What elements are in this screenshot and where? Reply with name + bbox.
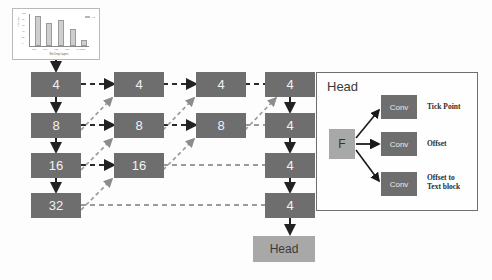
head-output-box[interactable]: Head [253, 236, 315, 262]
backbone-node[interactable]: 4 [196, 72, 246, 97]
backbone-node[interactable]: 16 [31, 153, 81, 178]
chart-y-tick-5: 0 [22, 42, 23, 44]
chart-x-tick: 0.85 [54, 48, 58, 50]
chart-y-tick-2: 60 [22, 24, 24, 26]
backbone-node[interactable]: 4 [114, 72, 164, 97]
legend-label: Acc [91, 16, 95, 18]
head-detail-panel: Head F Conv Conv Conv Tick Point Offset … [316, 72, 478, 211]
chart-plot-area [29, 14, 89, 47]
figure-canvas: Accuracy 100 80 60 40 20 0 Acc 0.95 0.90… [0, 0, 492, 280]
chart-x-tick: 0.90 [43, 48, 47, 50]
backbone-node[interactable]: 4 [265, 153, 315, 178]
backbone-node[interactable]: 4 [265, 113, 315, 138]
chart-bar [58, 20, 64, 46]
chart-bar [35, 16, 41, 46]
chart-y-tick-0: 100 [22, 12, 26, 14]
backbone-node[interactable]: 4 [265, 193, 315, 218]
chart-x-tick: 0.95 [32, 48, 36, 50]
chart-x-tick: 0.80 [65, 48, 69, 50]
chart-x-ticks: 0.95 0.90 0.85 0.80 0.1 (base) [29, 48, 89, 50]
chart-bar [46, 23, 52, 46]
chart-bars [32, 14, 90, 46]
chart-bar [81, 40, 87, 46]
backbone-node[interactable]: 4 [265, 72, 315, 97]
chart-x-tick: 0.1 (base) [76, 48, 85, 50]
chart-bar [70, 29, 76, 46]
chart-y-tick-4: 20 [22, 36, 24, 38]
legend-swatch-icon [85, 16, 90, 18]
backbone-node[interactable]: 8 [114, 113, 164, 138]
backbone-node[interactable]: 8 [31, 113, 81, 138]
chart-legend: Acc [85, 16, 95, 18]
chart-y-tick-1: 80 [22, 18, 24, 20]
chart-y-tick-3: 40 [22, 30, 24, 32]
chart-y-axis-label: Accuracy [17, 18, 20, 27]
backbone-node[interactable]: 16 [114, 153, 164, 178]
chart-x-axis-label: Net Drop Layers [29, 53, 89, 56]
accuracy-bar-chart: Accuracy 100 80 60 40 20 0 Acc 0.95 0.90… [12, 8, 100, 60]
backbone-node[interactable]: 4 [31, 72, 81, 97]
backbone-node[interactable]: 32 [31, 193, 81, 218]
backbone-node[interactable]: 8 [196, 113, 246, 138]
head-panel-edges [317, 73, 479, 212]
